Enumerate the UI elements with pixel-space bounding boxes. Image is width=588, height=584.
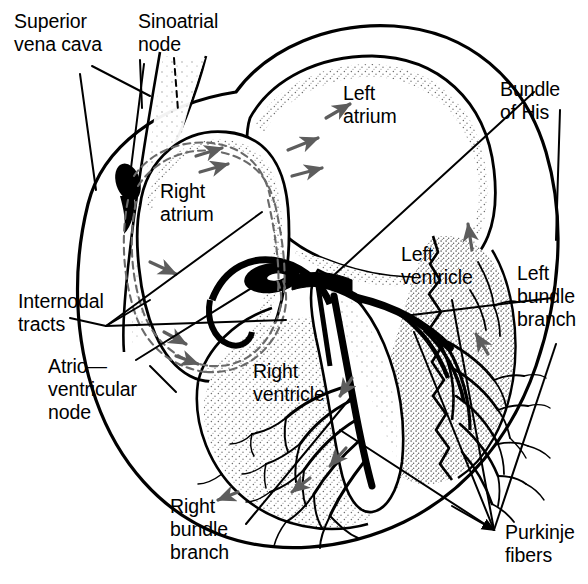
- label-right-atrium: Right atrium: [160, 180, 214, 226]
- label-left-atrium: Left atrium: [343, 82, 397, 128]
- heart-conduction-diagram: Superior vena cava Sinoatrial node Left …: [0, 0, 588, 584]
- label-superior-vena-cava: Superior vena cava: [14, 10, 102, 56]
- label-right-ventricle: Right ventricle: [253, 360, 325, 406]
- label-purkinje-fibers: Purkinje fibers: [505, 521, 575, 567]
- label-left-ventricle: Left ventricle: [401, 243, 473, 289]
- label-internodal-tracts: Internodal tracts: [18, 290, 104, 336]
- label-atrioventricular-node: Atrio— ventricular node: [48, 355, 137, 424]
- label-right-bundle-branch: Right bundle branch: [170, 495, 229, 564]
- label-left-bundle-branch: Left bundle branch: [517, 262, 576, 331]
- label-sinoatrial-node: Sinoatrial node: [138, 10, 218, 56]
- label-bundle-of-his: Bundle of His: [500, 78, 560, 124]
- leader-superior-vena-cava-2: [80, 74, 96, 190]
- leader-purkinje-arrow: [452, 506, 494, 530]
